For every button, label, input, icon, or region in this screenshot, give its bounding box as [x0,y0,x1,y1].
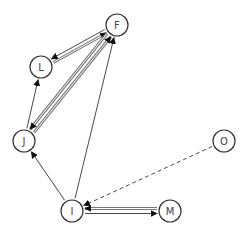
edge-o-to-i [84,146,212,205]
node-o: O [213,130,235,152]
node-j: J [13,130,35,152]
graph-canvas: FLJOIM [0,0,248,234]
node-label: L [38,62,44,73]
node-label: I [71,206,74,217]
edge-i-to-j [31,152,64,201]
node-label: M [166,206,175,217]
edges-layer [27,30,212,214]
edge-l-to-f [53,33,106,62]
node-f: F [106,14,128,36]
node-label: O [220,136,228,147]
edge-i-to-f [75,38,114,199]
node-m: M [159,200,181,222]
node-l: L [30,56,52,78]
node-label: J [22,136,26,147]
node-label: F [114,20,120,31]
node-i: I [61,200,83,222]
